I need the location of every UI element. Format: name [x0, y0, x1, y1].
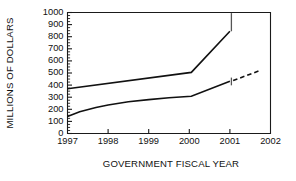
y-tick-label: 400 [48, 80, 64, 90]
data-series-group [68, 31, 260, 116]
series-lower-projection [233, 71, 259, 81]
x-tick-label: 2000 [179, 136, 200, 146]
series-upper [68, 31, 230, 88]
chart-figure: 01002003004005006007008009001000 1997199… [0, 0, 296, 181]
x-tick-label: 2002 [260, 136, 281, 146]
y-tick-label: 100 [48, 116, 64, 126]
chart-svg: 01002003004005006007008009001000 1997199… [0, 0, 296, 181]
y-tick-label: 900 [48, 19, 64, 29]
series-lower [68, 81, 230, 116]
y-tick-label: 300 [48, 92, 64, 102]
x-axis-tick-labels: 199719981999200020012002 [57, 136, 281, 146]
y-tick-label: 500 [48, 67, 64, 77]
y-axis-title: MILLIONS OF DOLLARS [4, 17, 15, 128]
x-tick-label: 1999 [138, 136, 159, 146]
y-tick-label: 600 [48, 55, 64, 65]
x-axis-title: GOVERNMENT FISCAL YEAR [103, 158, 239, 169]
x-axis-ticks [108, 129, 230, 134]
y-tick-label: 1000 [43, 7, 64, 17]
plot-frame [68, 13, 271, 134]
y-tick-label: 200 [48, 104, 64, 114]
x-tick-label: 1997 [57, 136, 78, 146]
x-tick-label: 2001 [220, 136, 241, 146]
x-tick-label: 1998 [98, 136, 119, 146]
y-tick-label: 700 [48, 43, 64, 53]
y-tick-label: 800 [48, 31, 64, 41]
y-axis-tick-labels: 01002003004005006007008009001000 [43, 7, 64, 138]
